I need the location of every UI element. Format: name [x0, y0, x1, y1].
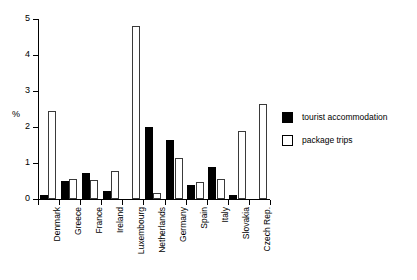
x-axis-tick [270, 200, 271, 205]
bar [208, 167, 216, 199]
x-axis-category-label: Germany [179, 207, 188, 242]
bar [90, 180, 98, 199]
bar [217, 179, 225, 199]
bar-chart: % 012345 DenmarkGreeceFranceIrelandLuxem… [0, 0, 417, 280]
bar [111, 171, 119, 199]
bar [153, 193, 161, 199]
x-axis-tick [122, 200, 123, 205]
plot-area [38, 19, 270, 199]
x-axis-tick [228, 200, 229, 205]
y-axis-title: % [12, 110, 20, 119]
bar [82, 173, 90, 199]
y-axis-tick-label: 1 [14, 158, 30, 167]
bar [132, 26, 140, 199]
legend-item: tourist accommodation [282, 112, 388, 123]
x-axis-tick [165, 200, 166, 205]
x-axis-category-label: Italy [221, 207, 230, 223]
legend-swatch-icon [282, 135, 293, 146]
x-axis-category-label: Czech Rep. [263, 207, 272, 251]
y-axis-tick-label: 0 [14, 194, 30, 203]
x-axis-tick [207, 200, 208, 205]
bar [238, 131, 246, 199]
x-axis-tick [101, 200, 102, 205]
legend-label: package trips [302, 136, 353, 145]
x-axis-category-label: Greece [74, 207, 83, 235]
y-axis-tick-label: 5 [14, 14, 30, 23]
bar [48, 111, 56, 199]
x-axis-category-label: Ireland [116, 207, 125, 233]
bar [196, 182, 204, 199]
x-axis-category-label: Spain [200, 207, 209, 229]
bar [187, 185, 195, 199]
x-axis-category-label: Denmark [53, 207, 62, 241]
bar [103, 191, 111, 199]
x-axis-tick [143, 200, 144, 205]
legend-label: tourist accommodation [302, 113, 388, 122]
x-axis-category-label: Slovakia [242, 207, 251, 239]
x-axis-tick [186, 200, 187, 205]
x-axis-category-label: France [95, 207, 104, 233]
x-axis-tick [249, 200, 250, 205]
legend-item: package trips [282, 135, 388, 146]
bar [145, 127, 153, 199]
bar [166, 140, 174, 199]
legend-swatch-icon [282, 112, 293, 123]
bar [69, 179, 77, 199]
bar [61, 181, 69, 199]
x-axis-tick [59, 200, 60, 205]
bar [229, 195, 237, 199]
x-axis-tick [38, 200, 39, 205]
y-axis-tick-label: 2 [14, 122, 30, 131]
chart-legend: tourist accommodationpackage trips [282, 112, 388, 158]
bar [40, 195, 48, 199]
bar [259, 104, 267, 199]
x-axis-tick [80, 200, 81, 205]
y-axis-tick-label: 3 [14, 86, 30, 95]
bar [175, 158, 183, 199]
x-axis-category-label: Netherlands [158, 207, 167, 253]
y-axis-tick-label: 4 [14, 50, 30, 59]
x-axis-line [38, 199, 270, 200]
x-axis-category-label: Luxembourg [137, 207, 146, 254]
